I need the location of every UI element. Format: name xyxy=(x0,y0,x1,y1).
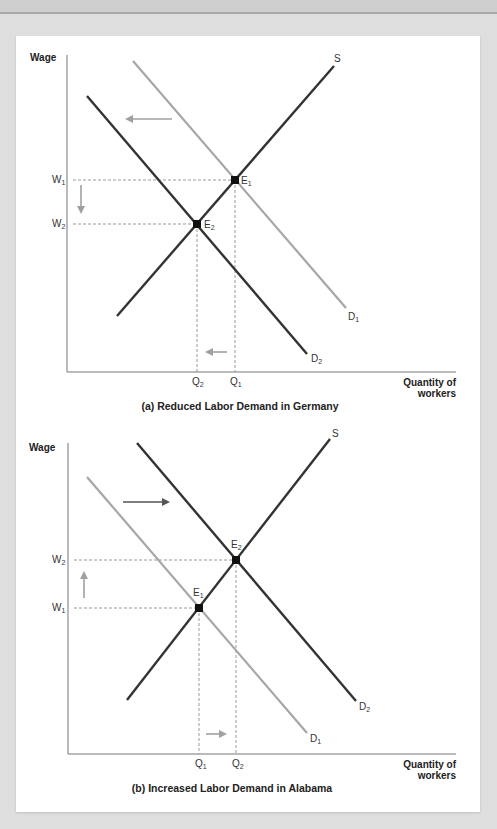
d2-label: D2 xyxy=(311,353,322,365)
w1-tick-label: W1 xyxy=(52,174,65,186)
supply-curve xyxy=(117,66,334,316)
e1-label: E1 xyxy=(241,175,252,187)
e1-label: E1 xyxy=(193,587,204,599)
d1-label: D1 xyxy=(348,311,359,323)
equilibrium-e1 xyxy=(195,604,203,612)
x-axis-label-line1: Quantity of xyxy=(403,759,456,770)
e2-label: E2 xyxy=(204,219,215,231)
x-axis-label-line2: workers xyxy=(417,388,457,399)
equilibrium-e1 xyxy=(231,176,239,184)
e2-label: E2 xyxy=(231,539,242,551)
q2-tick-label: Q2 xyxy=(192,376,204,388)
y-axis-label: Wage xyxy=(30,52,57,63)
d2-label: D2 xyxy=(359,701,370,713)
w2-tick-label: W2 xyxy=(52,554,65,566)
w2-tick-label: W2 xyxy=(52,218,65,230)
q1-tick-label: Q1 xyxy=(230,376,242,388)
supply-label: S xyxy=(334,53,341,64)
supply-curve xyxy=(127,439,330,700)
panel-b: Wage S D1 D2 E1 E2 W2 W1 Q1 Q2 Quantity … xyxy=(29,428,457,794)
x-axis-label-line2: workers xyxy=(417,770,457,781)
x-axis-label-line1: Quantity of xyxy=(403,377,456,388)
w1-tick-label: W1 xyxy=(52,602,65,614)
equilibrium-e2 xyxy=(232,556,240,564)
y-axis-label: Wage xyxy=(29,442,56,453)
panel-a: Wage S D1 D2 E1 E2 W1 W2 Q2 Q1 Quantity … xyxy=(30,52,457,412)
panel-a-caption: (a) Reduced Labor Demand in Germany xyxy=(141,400,338,412)
d1-label: D1 xyxy=(310,733,321,745)
q1-tick-label: Q1 xyxy=(195,758,207,770)
demand-curve-d1 xyxy=(133,61,346,308)
figure-svg: Wage S D1 D2 E1 E2 W1 W2 Q2 Q1 Quantity … xyxy=(0,0,497,829)
supply-label: S xyxy=(332,428,339,439)
equilibrium-e2 xyxy=(193,220,201,228)
q2-tick-label: Q2 xyxy=(232,758,244,770)
panel-b-caption: (b) Increased Labor Demand in Alabama xyxy=(132,782,332,794)
